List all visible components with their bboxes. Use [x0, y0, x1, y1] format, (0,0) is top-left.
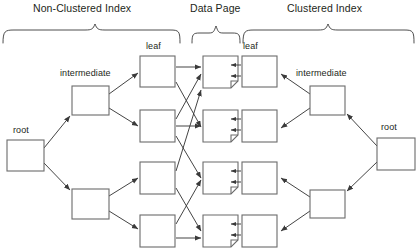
diagram-canvas [0, 0, 416, 249]
box-nc-leaf-1 [140, 56, 175, 87]
node-label-leaf-left: leaf [146, 41, 161, 51]
box-c-leaf-2 [242, 110, 277, 142]
connector-int1-to-leaf1 [109, 73, 138, 94]
connector-leaf1-to-dp2 [176, 82, 201, 127]
connector-leaf3-to-dp1 [176, 90, 201, 171]
connector-cint2-to-cleaf4 [281, 211, 310, 231]
box-c-intermediate-2 [310, 190, 345, 218]
section-label-data-page: Data Page [190, 2, 241, 14]
node-label-leaf-right: leaf [243, 41, 258, 51]
box-nc-leaf-4 [140, 215, 175, 247]
box-c-root [377, 138, 415, 170]
box-nc-root [7, 140, 44, 171]
connector-int2-to-leaf3 [109, 178, 138, 196]
box-dp-3 [203, 162, 238, 194]
node-label-root-left: root [13, 125, 29, 135]
node-label-intermediate-left: intermediate [60, 68, 111, 78]
connector-leaf4-to-dp3 [176, 180, 201, 224]
connector-leaf3-to-dp4 [176, 188, 201, 231]
connector-leaf2-to-dp1 [176, 74, 201, 119]
box-c-leaf-4 [242, 215, 277, 247]
box-nc-intermediate-1 [72, 86, 109, 115]
connector-cint1-to-cleaf2 [281, 108, 310, 128]
connector-leaf2-to-dp3 [176, 136, 201, 178]
box-c-leaf-3 [242, 162, 277, 194]
box-c-leaf-1 [242, 56, 277, 87]
section-brackets [3, 24, 414, 43]
node-label-root-right: root [381, 122, 397, 132]
connector-croot-to-cint1 [347, 114, 377, 146]
box-c-intermediate-1 [310, 86, 345, 115]
connector-int2-to-leaf4 [109, 211, 138, 229]
box-nc-intermediate-2 [72, 189, 109, 219]
connector-croot-to-cint2 [347, 162, 377, 191]
index-structure-diagram: Non-Clustered Index Data Page Clustered … [0, 0, 416, 249]
box-dp-1 [203, 56, 238, 88]
connector-root-to-intermediate-2 [44, 163, 70, 190]
section-label-clustered-index: Clustered Index [287, 2, 362, 14]
connector-int1-to-leaf2 [109, 108, 138, 126]
connector-cint2-to-cleaf3 [281, 178, 310, 197]
data-page-boxes [203, 56, 238, 247]
node-label-intermediate-right: intermediate [296, 68, 347, 78]
connector-root-to-intermediate-1 [44, 116, 70, 148]
box-nc-leaf-2 [140, 110, 175, 142]
box-nc-leaf-3 [140, 162, 175, 194]
box-dp-2 [203, 110, 238, 142]
box-dp-4 [203, 215, 238, 247]
clustered-to-datapage-arrows [231, 65, 241, 235]
section-label-non-clustered-index: Non-Clustered Index [33, 2, 131, 14]
